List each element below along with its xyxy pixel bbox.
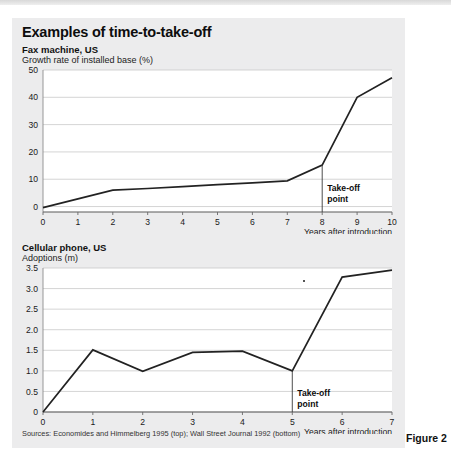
y-tick-label-3: 1.5	[26, 345, 38, 355]
plot-area-cellular: 00.51.01.52.02.53.03.501234567Years afte…	[12, 264, 405, 434]
figure-caption: Figure 2	[406, 432, 447, 444]
y-tick-label-2: 20	[28, 147, 38, 157]
page-title: Examples of time-to-take-off	[22, 24, 211, 40]
x-tick-label-8: 8	[320, 217, 325, 227]
y-tick-label-0: 0	[33, 407, 38, 417]
y-tick-label-4: 40	[28, 92, 38, 102]
x-tick-label-3: 3	[145, 217, 150, 227]
y-tick-label-7: 3.5	[26, 264, 38, 273]
y-tick-label-1: 10	[28, 174, 38, 184]
figure-panel: Examples of time-to-take-off Fax machine…	[12, 18, 405, 448]
x-tick-label-6: 6	[250, 217, 255, 227]
x-tick-label-4: 4	[240, 417, 245, 427]
page-top-rule	[0, 0, 451, 5]
y-tick-label-0: 0	[33, 202, 38, 212]
x-tick-label-6: 6	[340, 417, 345, 427]
x-tick-label-1: 1	[76, 217, 81, 227]
y-tick-label-2: 1.0	[26, 366, 38, 376]
plot-area-fax: 01020304050012345678910Years after intro…	[12, 66, 405, 234]
x-tick-label-3: 3	[190, 417, 195, 427]
chart-title-fax: Fax machine, US	[22, 44, 98, 55]
x-tick-label-9: 9	[355, 217, 360, 227]
y-tick-label-5: 50	[28, 66, 38, 75]
takeoff-label-line1: Take-off	[327, 183, 360, 193]
x-axis-title: Years after introduction	[304, 227, 392, 235]
takeoff-label-line2: point	[297, 399, 318, 409]
x-tick-label-2: 2	[140, 417, 145, 427]
chart-svg-fax: 01020304050012345678910Years after intro…	[12, 66, 405, 234]
chart-ylabel-cellular: Adoptions (m)	[22, 253, 78, 263]
sources-note: Sources: Economides and Himmelberg 1995 …	[22, 429, 300, 438]
y-tick-label-3: 30	[28, 120, 38, 130]
x-tick-label-0: 0	[41, 417, 46, 427]
x-axis-title: Years after introduction	[304, 427, 392, 435]
x-tick-label-0: 0	[41, 217, 46, 227]
y-tick-label-1: 0.5	[26, 387, 38, 397]
takeoff-label-line1: Take-off	[297, 388, 330, 398]
x-tick-label-2: 2	[110, 217, 115, 227]
x-tick-label-5: 5	[215, 217, 220, 227]
x-tick-label-5: 5	[290, 417, 295, 427]
y-tick-label-6: 3.0	[26, 284, 38, 294]
x-tick-label-7: 7	[285, 217, 290, 227]
y-tick-label-5: 2.5	[26, 304, 38, 314]
x-tick-label-10: 10	[387, 217, 397, 227]
x-tick-label-4: 4	[180, 217, 185, 227]
stray-speck	[303, 280, 305, 282]
plot-background	[43, 268, 392, 412]
chart-ylabel-fax: Growth rate of installed base (%)	[22, 55, 153, 65]
chart-svg-cellular: 00.51.01.52.02.53.03.501234567Years afte…	[12, 264, 405, 434]
y-tick-label-4: 2.0	[26, 325, 38, 335]
x-tick-label-7: 7	[390, 417, 395, 427]
takeoff-label-line2: point	[327, 194, 348, 204]
chart-title-cellular: Cellular phone, US	[22, 242, 106, 253]
x-tick-label-1: 1	[90, 417, 95, 427]
